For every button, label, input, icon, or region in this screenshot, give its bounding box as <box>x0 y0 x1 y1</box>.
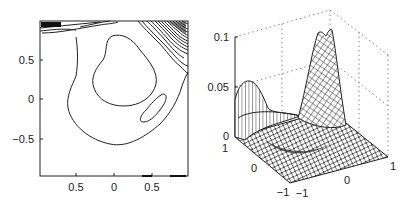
surface-main-peak <box>298 29 346 127</box>
x-tick-label: 0 <box>111 181 117 193</box>
x-tick-label: 0 <box>344 174 350 186</box>
y-tick-label: 0 <box>28 93 34 105</box>
y-tick-label: 0.5 <box>19 54 34 66</box>
y-tick-label: −1 <box>277 186 290 198</box>
x-tick-label: −1 <box>296 187 309 199</box>
y-tick-label: 0 <box>251 162 257 174</box>
z-tick-label: 0.1 <box>214 31 229 43</box>
contour-ticks <box>40 60 152 176</box>
contour-plot-canvas: 0.5 0 −0.5 0.5 0 0.5 <box>0 0 205 212</box>
y-tick-label: 1 <box>222 142 228 154</box>
surface-plot-canvas: 0.1 0.05 0 1 0 −1 −1 0 1 <box>205 0 410 212</box>
surface-plot: 0.1 0.05 0 1 0 −1 −1 0 1 <box>205 0 410 212</box>
y-tick-label: −0.5 <box>12 133 34 145</box>
x-tick-label: 1 <box>390 160 396 172</box>
z-tick-label: 0.05 <box>208 81 229 93</box>
z-tick-label: 0 <box>223 130 229 142</box>
contour-plot: 0.5 0 −0.5 0.5 0 0.5 <box>0 0 205 212</box>
contour-lines <box>40 21 188 145</box>
dense-contour-top-left <box>41 22 61 27</box>
x-tick-label: 0.5 <box>68 181 83 193</box>
x-tick-label: 0.5 <box>144 181 159 193</box>
